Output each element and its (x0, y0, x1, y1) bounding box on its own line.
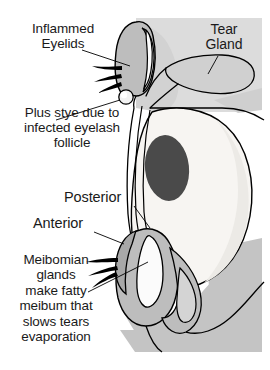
label-anterior: Anterior (33, 216, 83, 232)
label-posterior: Posterior (64, 190, 121, 206)
label-inflamed-eyelids: Inflammed Eyelids (8, 22, 118, 52)
stye-highlight (121, 92, 127, 98)
eye-anatomy-figure: Inflammed Eyelids Plus stye due to infec… (0, 0, 270, 370)
label-meibomian-note: Meibomian glands make fatty meibum that … (2, 252, 110, 344)
label-stye-note: Plus stye due to infected eyelash follic… (4, 106, 140, 151)
label-tear-gland: Tear Gland (193, 22, 255, 53)
